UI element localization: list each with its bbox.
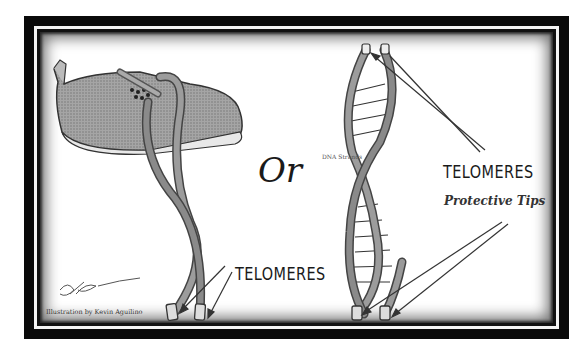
protective-tips-label: Protective Tips bbox=[444, 194, 545, 208]
dna-strands-label: DNA Strands bbox=[322, 153, 348, 160]
illustration-panel: Or TELOMERES DNA Strands TELOMERES Prote… bbox=[40, 32, 553, 323]
frame-inner-border: Or TELOMERES DNA Strands TELOMERES Prote… bbox=[37, 29, 556, 326]
artist-signature bbox=[60, 278, 140, 295]
connector-word-or: Or bbox=[258, 150, 302, 190]
dna-helix-icon bbox=[346, 44, 402, 320]
telomeres-label-left: TELOMERES bbox=[235, 264, 326, 284]
telomere-arrows-bottom bbox=[362, 222, 508, 317]
frame-mat: Or TELOMERES DNA Strands TELOMERES Prote… bbox=[34, 26, 559, 329]
picture-frame: Or TELOMERES DNA Strands TELOMERES Prote… bbox=[24, 16, 569, 339]
illustration-credit: Illustration by Kevin Aguilino bbox=[46, 308, 143, 316]
telomeres-label-right: TELOMERES bbox=[443, 162, 534, 182]
